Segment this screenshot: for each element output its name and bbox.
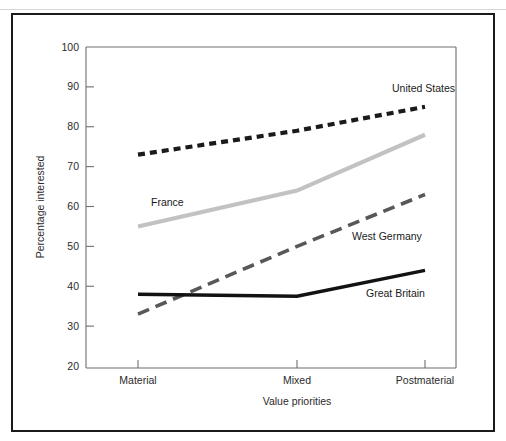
tick-marks (86, 87, 425, 368)
svg-text:50: 50 (67, 240, 79, 252)
series-line-united-states (138, 107, 425, 155)
series-labels: United StatesFranceWest GermanyGreat Bri… (151, 82, 455, 299)
svg-text:100: 100 (61, 41, 79, 53)
series-label-west-germany: West Germany (352, 230, 423, 242)
svg-text:60: 60 (67, 200, 79, 212)
x-axis-tick-labels: MaterialMixedPostmaterial (119, 374, 454, 386)
series-label-france: France (151, 196, 184, 208)
svg-text:80: 80 (67, 120, 79, 132)
svg-text:Material: Material (119, 374, 156, 386)
svg-text:30: 30 (67, 320, 79, 332)
svg-text:90: 90 (67, 80, 79, 92)
svg-text:Mixed: Mixed (283, 374, 311, 386)
series-label-united-states: United States (392, 82, 455, 94)
x-axis-title: Value priorities (263, 395, 332, 407)
svg-text:70: 70 (67, 160, 79, 172)
y-axis-tick-labels: 2030405060708090100 (61, 41, 79, 372)
chart-canvas: 2030405060708090100 MaterialMixedPostmat… (0, 0, 506, 441)
svg-text:20: 20 (67, 360, 79, 372)
data-series (138, 107, 425, 314)
svg-text:Postmaterial: Postmaterial (396, 374, 454, 386)
svg-text:40: 40 (67, 280, 79, 292)
y-axis-title: Percentage interested (34, 155, 46, 258)
series-line-france (138, 135, 425, 227)
axes (86, 47, 456, 368)
series-label-great-britain: Great Britain (366, 287, 425, 299)
